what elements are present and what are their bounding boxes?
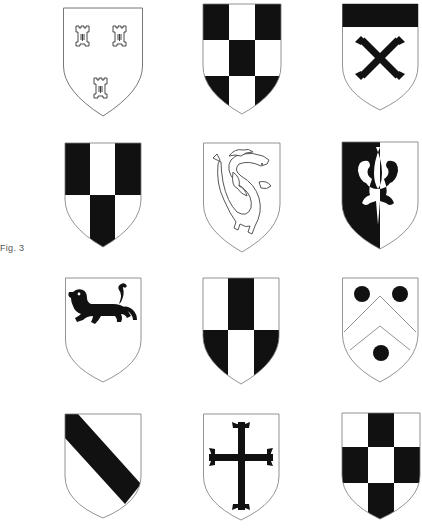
saltire-icon bbox=[342, 4, 422, 116]
shield-pale-counterchanged bbox=[65, 143, 145, 255]
shield-chevron-roundels bbox=[342, 278, 422, 390]
pale-counterchanged-icon bbox=[65, 143, 145, 255]
shield-checky-inverse bbox=[342, 413, 422, 525]
shield-pale-counterchanged-inverse bbox=[203, 278, 283, 390]
shield-bend bbox=[65, 414, 145, 526]
figure-caption: Fig. 3 bbox=[0, 243, 24, 253]
checky-icon bbox=[203, 4, 283, 116]
three-towers-icon bbox=[63, 6, 143, 118]
shield-checky bbox=[203, 4, 283, 116]
fleur-de-lis-icon bbox=[342, 141, 422, 253]
chevron-roundels-icon bbox=[342, 278, 422, 390]
lion-icon bbox=[65, 278, 145, 390]
shield-fleur-de-lis bbox=[342, 141, 422, 253]
pale-counterchanged-inverse-icon bbox=[203, 278, 283, 390]
shield-dragon bbox=[203, 142, 283, 254]
shield-chief-saltire bbox=[342, 4, 422, 116]
shield-lion-passant bbox=[65, 278, 145, 390]
cross-icon bbox=[203, 414, 283, 526]
dragon-icon bbox=[203, 142, 283, 254]
checky-inverse-icon bbox=[342, 413, 422, 525]
shield-three-towers bbox=[63, 6, 143, 118]
bend-icon bbox=[65, 414, 145, 526]
shield-cross-patonce bbox=[203, 414, 283, 526]
